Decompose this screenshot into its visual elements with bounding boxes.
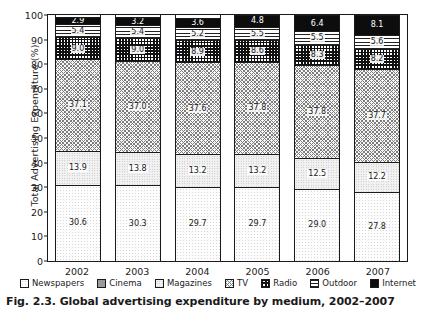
- bar-segment-value: 13.9: [68, 164, 88, 172]
- legend-item-tv[interactable]: TV: [225, 278, 248, 288]
- bar-segment-outdoor[interactable]: 5.5: [295, 31, 339, 45]
- bar-segment-internet[interactable]: 3.2: [116, 17, 160, 25]
- bar-segment-value: 27.8: [367, 223, 387, 231]
- legend-item-outdoor[interactable]: Outdoor: [310, 278, 357, 288]
- bar-segment-value: 37.1: [68, 101, 88, 109]
- legend-label: Radio: [273, 278, 297, 288]
- bar-2006[interactable]: 29.00.412.537.88.35.56.4: [294, 15, 340, 261]
- legend-label: Newspapers: [32, 278, 84, 288]
- bar-segment-value: 0.4: [370, 192, 384, 193]
- bar-2005[interactable]: 29.70.413.237.88.65.54.8: [234, 15, 280, 261]
- bar-segment-outdoor[interactable]: 5.2: [176, 27, 220, 40]
- bar-segment-value: 8.2: [370, 55, 385, 63]
- bar-segment-value: 8.3: [310, 51, 325, 59]
- bar-segment-radio[interactable]: 8.6: [235, 40, 279, 61]
- legend-swatch-radio-icon: [261, 279, 270, 288]
- legend-swatch-cinema-icon: [97, 279, 106, 288]
- bar-segment-value: 30.6: [68, 219, 88, 227]
- bar-segment-newspapers[interactable]: 29.7: [235, 188, 279, 261]
- legend-swatch-outdoor-icon: [310, 279, 319, 288]
- bar-segment-cinema[interactable]: 0.4: [116, 185, 160, 186]
- x-axis-tick-2004: 2004: [174, 262, 220, 277]
- x-axis-tick-2005: 2005: [235, 262, 281, 277]
- bar-segment-newspapers[interactable]: 29.7: [176, 188, 220, 261]
- bar-segment-magazines[interactable]: 13.2: [235, 154, 279, 186]
- bar-segment-value: 0.4: [250, 187, 264, 188]
- bar-segment-tv[interactable]: 37.1: [56, 59, 100, 150]
- bar-segment-value: 6.4: [310, 20, 325, 28]
- bar-segment-value: 12.2: [367, 173, 387, 181]
- bar-segment-newspapers[interactable]: 30.3: [116, 186, 160, 261]
- bar-segment-value: 37.7: [367, 112, 387, 120]
- bar-segment-value: 5.2: [190, 30, 205, 38]
- legend-swatch-magazines-icon: [155, 279, 164, 288]
- bar-segment-tv[interactable]: 37.6: [176, 62, 220, 154]
- bar-segment-value: 0.4: [191, 187, 205, 188]
- bar-segment-magazines[interactable]: 12.2: [355, 162, 399, 192]
- x-axis-tick-2006: 2006: [295, 262, 341, 277]
- bar-segment-magazines[interactable]: 13.8: [116, 152, 160, 186]
- bar-segment-value: 0.4: [71, 185, 85, 186]
- legend-item-magazines[interactable]: Magazines: [155, 278, 212, 288]
- bar-2007[interactable]: 27.80.412.237.78.25.68.1: [354, 15, 400, 261]
- legend-item-cinema[interactable]: Cinema: [97, 278, 141, 288]
- bar-segment-value: 5.6: [370, 38, 385, 46]
- bar-segment-value: 3.2: [130, 18, 145, 25]
- bar-segment-value: 3.6: [190, 19, 205, 27]
- bar-segment-internet[interactable]: 8.1: [355, 15, 399, 35]
- bar-segment-value: 37.8: [307, 108, 327, 116]
- bar-segment-internet[interactable]: 4.8: [235, 15, 279, 27]
- bar-segment-value: 13.2: [247, 167, 267, 175]
- bar-segment-newspapers[interactable]: 30.6: [56, 186, 100, 261]
- bar-segment-cinema[interactable]: 0.4: [295, 189, 339, 190]
- legend-item-internet[interactable]: Internet: [370, 278, 416, 288]
- legend-label: TV: [237, 278, 248, 288]
- bar-segment-value: 5.4: [130, 28, 145, 36]
- bar-segment-value: 37.0: [128, 103, 148, 111]
- bar-segment-radio[interactable]: 8.2: [355, 49, 399, 69]
- x-axis-tick-2003: 2003: [114, 262, 160, 277]
- bar-2003[interactable]: 30.30.413.837.09.05.43.2: [115, 15, 161, 261]
- bar-segment-value: 0.4: [310, 189, 324, 190]
- bar-segment-radio[interactable]: 8.9: [176, 40, 220, 62]
- bar-segment-tv[interactable]: 37.7: [355, 69, 399, 162]
- bar-segment-outdoor[interactable]: 5.4: [56, 24, 100, 37]
- bar-segment-tv[interactable]: 37.8: [235, 62, 279, 155]
- plot-area: 0102030405060708090100 30.60.413.937.19.…: [47, 14, 408, 262]
- bar-segment-magazines[interactable]: 12.5: [295, 158, 339, 189]
- legend-label: Cinema: [109, 278, 141, 288]
- bar-segment-value: 37.8: [247, 104, 267, 112]
- legend-label: Outdoor: [322, 278, 357, 288]
- bar-segment-value: 37.6: [188, 105, 208, 113]
- bar-segment-value: 2.9: [71, 17, 86, 24]
- bar-2004[interactable]: 29.70.413.237.68.95.23.6: [175, 15, 221, 261]
- bar-segment-newspapers[interactable]: 29.0: [295, 190, 339, 261]
- bar-segment-outdoor[interactable]: 5.4: [116, 25, 160, 38]
- bar-segment-value: 8.9: [190, 48, 205, 56]
- bar-segment-magazines[interactable]: 13.9: [56, 151, 100, 185]
- legend-item-radio[interactable]: Radio: [261, 278, 297, 288]
- bar-segment-internet[interactable]: 2.9: [56, 17, 100, 24]
- bar-segment-tv[interactable]: 37.0: [116, 61, 160, 152]
- bar-segment-value: 30.3: [128, 220, 148, 228]
- bar-segment-cinema[interactable]: 0.4: [355, 192, 399, 193]
- bar-segment-internet[interactable]: 6.4: [295, 15, 339, 31]
- legend-swatch-internet-icon: [370, 279, 379, 288]
- bar-segment-outdoor[interactable]: 5.6: [355, 35, 399, 49]
- legend-item-newspapers[interactable]: Newspapers: [20, 278, 84, 288]
- bar-segment-value: 13.8: [128, 165, 148, 173]
- bar-segment-internet[interactable]: 3.6: [176, 18, 220, 27]
- bar-segment-radio[interactable]: 9.0: [56, 37, 100, 59]
- bar-segment-radio[interactable]: 8.3: [295, 45, 339, 65]
- bar-segment-outdoor[interactable]: 5.5: [235, 27, 279, 41]
- bar-segment-cinema[interactable]: 0.4: [56, 185, 100, 186]
- bar-segment-cinema[interactable]: 0.4: [235, 187, 279, 188]
- bar-segment-newspapers[interactable]: 27.8: [355, 193, 399, 261]
- bar-segment-value: 5.5: [250, 30, 265, 38]
- bar-2002[interactable]: 30.60.413.937.19.05.42.9: [55, 15, 101, 261]
- bar-segment-value: 5.4: [71, 27, 86, 35]
- bar-segment-radio[interactable]: 9.0: [116, 38, 160, 60]
- bar-segment-cinema[interactable]: 0.4: [176, 187, 220, 188]
- bar-segment-magazines[interactable]: 13.2: [176, 154, 220, 186]
- bar-segment-tv[interactable]: 37.8: [295, 65, 339, 158]
